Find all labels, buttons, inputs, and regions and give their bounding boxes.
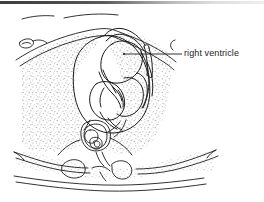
rib-fragment-top-left bbox=[22, 16, 54, 19]
spinous-process-2 bbox=[102, 152, 110, 166]
rib-fragment-top-right bbox=[64, 14, 118, 18]
rib-tip-mark-right bbox=[171, 40, 175, 50]
rib-cross-section-left-tail bbox=[33, 40, 47, 43]
leader-anchor-dot bbox=[123, 53, 125, 55]
vertebral-body-inner bbox=[84, 124, 107, 148]
rib-cross-section-left-inner bbox=[22, 43, 31, 45]
atrioventricular-valve-left bbox=[100, 88, 104, 107]
descending-aorta bbox=[85, 130, 98, 143]
anatomical-drawing bbox=[0, 0, 264, 202]
rib-cross-section-left bbox=[19, 39, 33, 48]
figure-root: right ventricle bbox=[0, 0, 264, 202]
back-skin-line-2 bbox=[16, 182, 206, 191]
annotation-label-right-ventricle: right ventricle bbox=[184, 48, 239, 58]
